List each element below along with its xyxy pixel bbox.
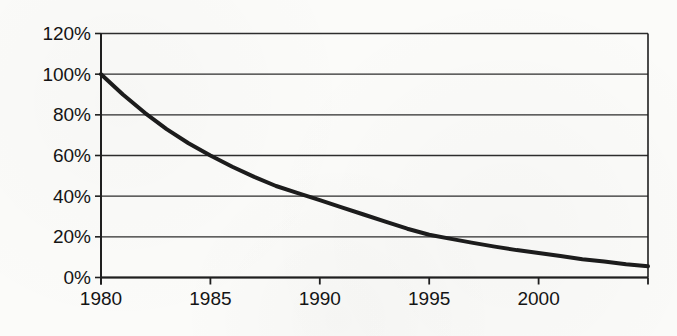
x-tick-label-1990: 1990 — [299, 288, 341, 309]
line-chart: 0%20%40%60%80%100%120%198019851990199520… — [0, 0, 677, 336]
x-tick-label-1995: 1995 — [408, 288, 450, 309]
y-tick-label-60: 60% — [53, 145, 91, 166]
x-tick-label-1980: 1980 — [80, 288, 122, 309]
chart-container: 0%20%40%60%80%100%120%198019851990199520… — [0, 0, 677, 336]
y-tick-label-0: 0% — [64, 267, 92, 288]
x-tick-label-1985: 1985 — [189, 288, 231, 309]
y-tick-label-20: 20% — [53, 226, 91, 247]
y-tick-label-80: 80% — [53, 104, 91, 125]
x-tick-label-2000: 2000 — [517, 288, 559, 309]
y-tick-label-40: 40% — [53, 186, 91, 207]
y-tick-label-100: 100% — [42, 64, 91, 85]
y-tick-label-120: 120% — [42, 23, 91, 44]
